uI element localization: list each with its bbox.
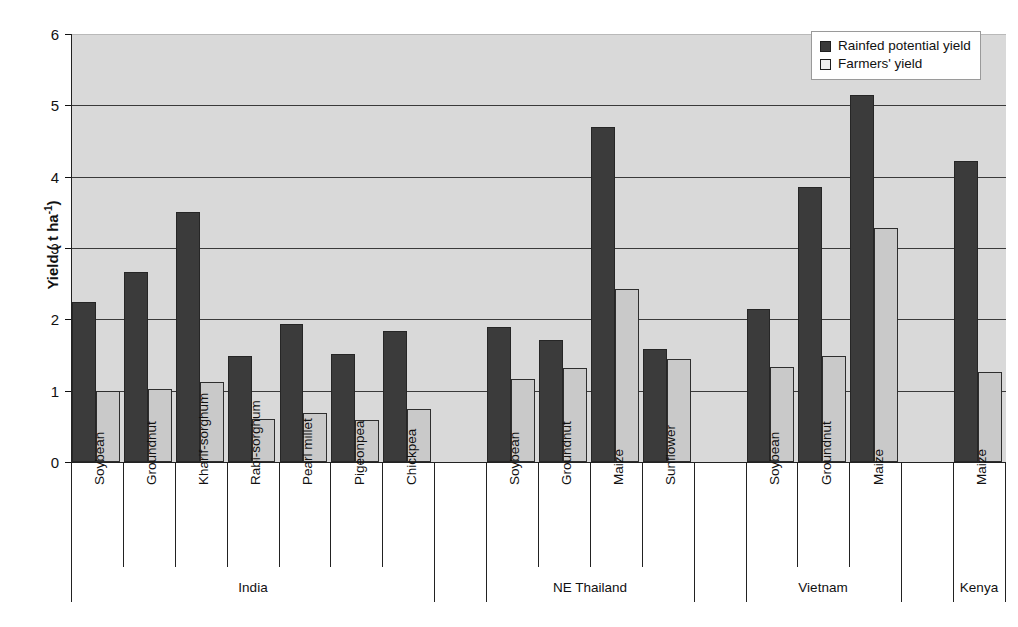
category-label-5: Pigeonpea	[352, 420, 367, 485]
category-separator	[175, 462, 176, 567]
category-label-8: Soybean	[507, 432, 522, 485]
category-label-15: Maize	[871, 449, 886, 485]
category-label-14: Groundnut	[819, 421, 834, 485]
group-label-vietnam: Vietnam	[798, 580, 847, 595]
category-label-2: Kharif-sorghum	[196, 393, 211, 485]
category-label-11: Sunflower	[663, 425, 678, 485]
category-axis: SoybeanGroundnutKharif-sorghumRabi-sorgh…	[0, 0, 1018, 627]
category-label-9: Groundnut	[559, 421, 574, 485]
category-label-6: Chickpea	[404, 429, 419, 485]
category-separator	[382, 462, 383, 567]
group-separator	[953, 462, 954, 602]
category-separator	[590, 462, 591, 567]
bar-chart: Yield ( t ha-1)0123456Rainfed potential …	[0, 0, 1018, 627]
group-label-ne-thailand: NE Thailand	[553, 580, 627, 595]
category-separator	[797, 462, 798, 567]
category-label-0: Soybean	[92, 432, 107, 485]
category-label-1: Groundnut	[144, 421, 159, 485]
category-separator	[227, 462, 228, 567]
category-separator	[279, 462, 280, 567]
group-separator	[1005, 462, 1006, 602]
category-separator	[849, 462, 850, 567]
group-separator	[71, 462, 72, 602]
group-label-kenya: Kenya	[960, 580, 998, 595]
category-separator	[538, 462, 539, 567]
group-separator	[694, 462, 695, 602]
category-label-17: Maize	[974, 449, 989, 485]
group-separator	[901, 462, 902, 602]
group-label-india: India	[238, 580, 267, 595]
group-separator	[434, 462, 435, 602]
category-label-10: Maize	[611, 449, 626, 485]
category-label-4: Pearl millet	[300, 418, 315, 485]
group-separator	[746, 462, 747, 602]
category-label-13: Soybean	[767, 432, 782, 485]
category-separator	[123, 462, 124, 567]
group-separator	[486, 462, 487, 602]
category-label-3: Rabi-sorghum	[248, 400, 263, 485]
category-separator	[642, 462, 643, 567]
category-separator	[330, 462, 331, 567]
